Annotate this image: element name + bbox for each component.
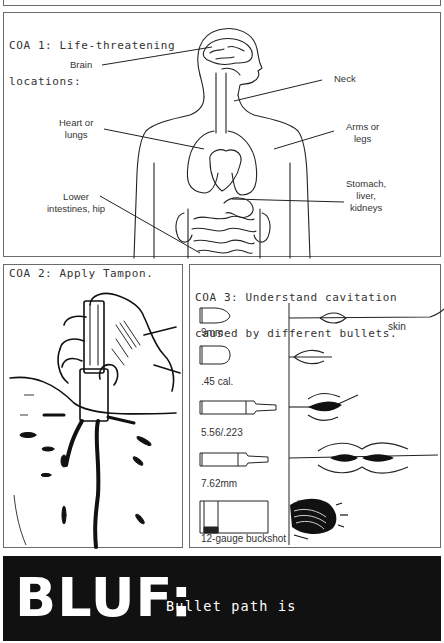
bullet-label-762: 7.62mm <box>201 478 237 489</box>
label-neck: Neck <box>334 73 356 85</box>
label-brain: Brain <box>70 59 92 71</box>
bullet-label-9mm: 9mm <box>201 327 223 338</box>
cavitation-diagram <box>190 265 442 549</box>
previous-panel-edge <box>3 0 441 6</box>
label-stomach-liver-kidneys: Stomach, liver, kidneys <box>346 178 386 214</box>
bullet-label-45cal: .45 cal. <box>201 376 233 387</box>
bluf-banner: BLUF: Bullet path is unpredictable after… <box>3 556 441 641</box>
tampon-application-illustration <box>4 265 184 549</box>
bullet-label-556: 5.56/.223 <box>201 427 243 438</box>
coa3-panel: COA 3: Understand cavitation caused by d… <box>189 264 441 548</box>
skin-label: skin <box>388 321 406 332</box>
label-heart-lungs: Heart or lungs <box>59 117 93 141</box>
coa1-panel: COA 1: Life-threatening locations: <box>3 12 441 257</box>
label-lower-intestines-hip: Lower intestines, hip <box>47 191 105 215</box>
bluf-line-1: Bullet path is <box>166 598 399 616</box>
bullet-label-buckshot: 12-gauge buckshot <box>201 533 286 544</box>
bluf-message: Bullet path is unpredictable after initi… <box>166 563 399 643</box>
label-arms-legs: Arms or legs <box>346 121 379 145</box>
coa2-panel: COA 2: Apply Tampon. <box>3 264 183 548</box>
